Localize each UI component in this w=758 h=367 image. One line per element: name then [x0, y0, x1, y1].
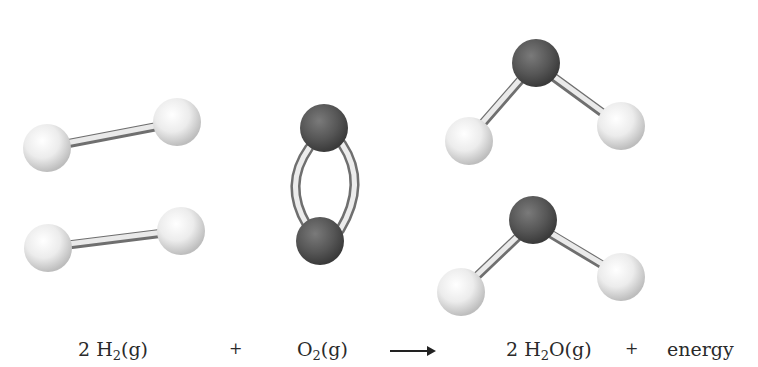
hydrogen-atom — [597, 253, 645, 301]
reactant-o2-label: O2(g) — [297, 338, 348, 360]
hydrogen-atom — [437, 268, 485, 316]
hydrogen-atom — [597, 102, 645, 150]
h2o-molecule-1 — [445, 39, 645, 165]
hydrogen-atom — [153, 98, 201, 146]
reaction-scene — [0, 0, 758, 367]
hydrogen-atom — [24, 224, 72, 272]
product-energy-label: energy — [667, 338, 734, 360]
reactant-h2-label: 2 H2(g) — [78, 338, 148, 360]
hydrogen-atom — [157, 207, 205, 255]
o2-molecule — [295, 104, 354, 265]
h2-molecule-1 — [23, 98, 201, 172]
reaction-arrow-icon — [390, 350, 434, 352]
oxygen-atom — [509, 196, 557, 244]
hydrogen-atom — [445, 117, 493, 165]
h2o-molecule-2 — [437, 196, 645, 316]
plus-sign: + — [625, 338, 638, 360]
h2-molecule-2 — [24, 207, 205, 272]
oxygen-atom — [300, 104, 348, 152]
product-h2o-label: 2 H2O(g) — [506, 338, 592, 360]
hydrogen-atom — [23, 124, 71, 172]
oxygen-atom — [296, 217, 344, 265]
oxygen-atom — [512, 39, 560, 87]
plus-sign: + — [229, 338, 242, 360]
